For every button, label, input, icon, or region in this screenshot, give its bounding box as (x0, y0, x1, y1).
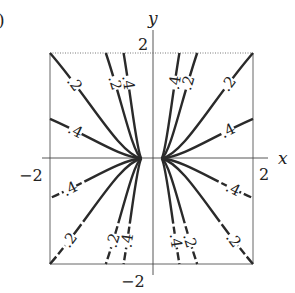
curve-curve-ul-1 (50, 53, 141, 159)
curve-curve-ur-3 (162, 53, 253, 159)
curve-label: .4 (118, 74, 138, 91)
curve-curve-lr-2 (162, 159, 198, 265)
curve-curve-lr-3 (162, 159, 253, 265)
curve-label: .2 (58, 229, 81, 251)
y-tick-label-2: 2 (138, 35, 148, 54)
curve-label: .2 (222, 229, 245, 251)
x-axis-label: x (278, 148, 288, 168)
y-axis-label: y (147, 8, 158, 28)
curve-label: .2 (217, 73, 240, 95)
figure-label: ) (0, 10, 5, 30)
curve-label: .2 (63, 73, 86, 95)
x-tick-label-neg2: −2 (19, 166, 43, 185)
curve-curve-ul-3 (106, 53, 142, 159)
curve-label: .4 (60, 178, 81, 200)
curve-label: .4 (117, 232, 137, 249)
curve-label: .4 (65, 120, 86, 142)
curve-label: .4 (217, 120, 238, 142)
flow-plot: ) .2.4.2.4.4.2.2.4.4.2.2.4.4.2.2.4 x y −… (0, 0, 295, 293)
y-tick-label-neg2: −2 (121, 272, 145, 291)
curve-curve-ur-2 (162, 53, 198, 159)
x-tick-label-2: 2 (259, 165, 269, 184)
curve-label: .4 (223, 178, 244, 200)
